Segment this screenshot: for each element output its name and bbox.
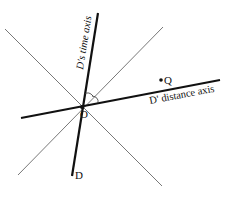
origin-label: O <box>80 108 88 120</box>
event-q-label: Q <box>164 74 172 86</box>
event-q-point <box>159 78 163 82</box>
light-line-sw-ne <box>18 27 163 175</box>
time-axis-end-label: D <box>75 169 83 181</box>
angle-arc-distance <box>92 96 98 103</box>
spacetime-diagram: O Q D' distance axis D's time axis D <box>0 0 234 200</box>
distance-axis <box>21 80 220 118</box>
